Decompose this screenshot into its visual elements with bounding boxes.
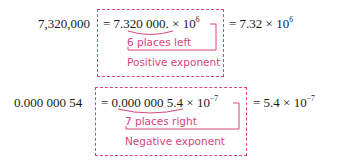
bracket-arrow-icon bbox=[128, 24, 216, 50]
decimal-move-arc-icon bbox=[128, 31, 173, 35]
bracket-arrow-icon bbox=[126, 103, 239, 129]
annotation-arrows bbox=[0, 0, 341, 164]
decimal-move-arc-icon bbox=[118, 109, 183, 113]
